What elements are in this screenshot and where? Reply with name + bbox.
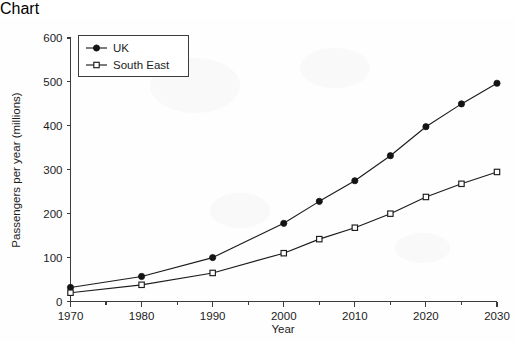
y-tick-label: 100: [43, 252, 62, 264]
x-axis-ticks: 1970198019902000201020202030: [58, 302, 510, 322]
y-tick-label: 500: [43, 76, 62, 88]
data-point-marker: [68, 290, 73, 295]
x-tick-label: 1980: [129, 310, 155, 322]
series-line: [71, 83, 498, 287]
data-point-marker: [423, 124, 429, 130]
data-point-marker: [387, 153, 393, 159]
data-point-marker: [210, 270, 215, 275]
data-point-marker: [352, 178, 358, 184]
series-line: [71, 172, 498, 293]
x-tick-label: 2010: [342, 310, 368, 322]
x-tick-label: 2000: [271, 310, 297, 322]
chart-figure: 0100200300400500600 19701980199020002010…: [0, 18, 515, 342]
legend-label: South East: [113, 59, 170, 71]
x-axis-title: Year: [271, 323, 294, 335]
y-tick-label: 600: [43, 32, 62, 44]
axes: [71, 38, 498, 302]
y-axis-ticks: 0100200300400500600: [43, 32, 70, 308]
data-point-marker: [316, 198, 322, 204]
y-tick-label: 300: [43, 164, 62, 176]
data-point-marker: [494, 80, 500, 86]
data-point-marker: [281, 220, 287, 226]
data-point-marker: [458, 101, 464, 107]
x-tick-label: 2030: [484, 310, 510, 322]
data-point-marker: [423, 194, 428, 199]
data-point-marker: [459, 181, 464, 186]
series-south-east: [68, 169, 500, 295]
legend-label: UK: [113, 42, 129, 54]
data-point-marker: [494, 169, 499, 174]
y-tick-label: 0: [56, 296, 62, 308]
line-chart: 0100200300400500600 19701980199020002010…: [0, 18, 515, 342]
data-point-marker: [210, 254, 216, 260]
chart-legend: UKSouth East: [79, 36, 189, 77]
data-point-marker: [281, 250, 286, 255]
data-point-marker: [317, 236, 322, 241]
y-tick-label: 200: [43, 208, 62, 220]
data-point-marker: [139, 282, 144, 287]
y-axis-title: Passengers per year (millions): [10, 92, 22, 247]
data-point-marker: [388, 211, 393, 216]
legend-marker: [94, 62, 99, 67]
series-uk: [67, 80, 500, 290]
data-series: [67, 80, 500, 295]
x-tick-label: 1970: [58, 310, 84, 322]
legend-marker: [93, 45, 99, 51]
data-point-marker: [138, 273, 144, 279]
y-tick-label: 400: [43, 120, 62, 132]
x-tick-label: 2020: [413, 310, 439, 322]
x-tick-label: 1990: [200, 310, 226, 322]
data-point-marker: [352, 225, 357, 230]
